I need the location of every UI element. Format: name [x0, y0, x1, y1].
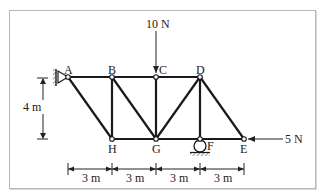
- joint-E: [242, 137, 247, 142]
- span-label-4: 3 m: [214, 171, 233, 185]
- span-label-3: 3 m: [170, 171, 189, 185]
- member-D-G: [156, 77, 200, 139]
- height-dimension-label: 4 m: [23, 100, 42, 114]
- joint-F: [198, 137, 203, 142]
- node-label-H: H: [108, 142, 117, 156]
- node-label-C: C: [159, 63, 167, 77]
- member-B-G: [112, 77, 156, 139]
- node-label-F: F: [207, 139, 214, 153]
- member-D-E: [200, 77, 244, 139]
- member-A-H: [68, 77, 112, 139]
- truss-members: [68, 77, 244, 139]
- node-label-A: A: [64, 63, 73, 77]
- span-label-2: 3 m: [126, 171, 145, 185]
- joint-C: [154, 75, 159, 80]
- joint-G: [154, 137, 159, 142]
- node-label-E: E: [240, 142, 247, 156]
- node-label-B: B: [108, 63, 116, 77]
- load-label-10N: 10 N: [146, 17, 170, 31]
- span-label-1: 3 m: [82, 171, 101, 185]
- node-label-D: D: [196, 63, 205, 77]
- node-label-G: G: [152, 142, 161, 156]
- load-label-5N: 5 N: [285, 132, 303, 146]
- truss-diagram: A B C D H G F E 10 N 5 N 4 m: [0, 0, 322, 195]
- joint-H: [110, 137, 115, 142]
